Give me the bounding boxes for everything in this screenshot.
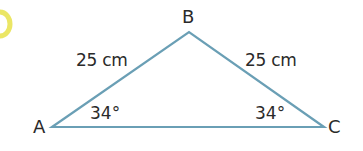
- vertex-label-b: B: [182, 8, 194, 26]
- angle-label-c: 34°: [255, 105, 285, 122]
- vertex-label-c: C: [328, 118, 341, 136]
- angle-label-a: 34°: [90, 105, 120, 122]
- question-marker-icon: [0, 12, 10, 36]
- side-label-bc: 25 cm: [245, 52, 296, 69]
- vertex-label-a: A: [33, 118, 45, 136]
- triangle-diagram: A B C 25 cm 25 cm 34° 34°: [0, 0, 363, 151]
- side-label-ab: 25 cm: [76, 52, 127, 69]
